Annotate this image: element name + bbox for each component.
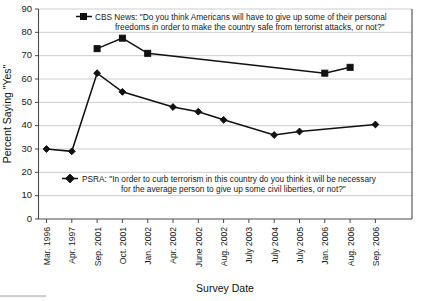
y-tick-label: 40 bbox=[21, 119, 32, 130]
x-tick-label: Aug. 2002 bbox=[219, 227, 229, 266]
x-tick-label: June 2002 bbox=[194, 227, 204, 267]
gridlines bbox=[39, 9, 413, 196]
poll-line-chart: 0102030405060708090 Mar. 1996Apr. 1997Se… bbox=[0, 0, 425, 301]
x-tick-label: July 2005 bbox=[295, 227, 305, 264]
x-tick-label: July 2004 bbox=[270, 227, 280, 264]
legend-cbs-line2: freedoms in order to make the country sa… bbox=[115, 22, 385, 32]
x-tick-label: Oct. 2001 bbox=[118, 227, 128, 264]
data-point-marker bbox=[296, 128, 303, 135]
x-axis-ticks bbox=[47, 219, 376, 223]
x-tick-label: Apr. 2002 bbox=[168, 227, 178, 264]
legend-cbs-line1: CBS News: "Do you think Americans will h… bbox=[95, 12, 387, 22]
y-tick-label: 90 bbox=[21, 3, 32, 14]
x-axis-title: Survey Date bbox=[196, 282, 254, 294]
y-tick-label: 70 bbox=[21, 49, 32, 60]
legend-psra-line1: PSRA: "In order to curb terrorism in thi… bbox=[82, 174, 377, 184]
x-axis-tick-labels: Mar. 1996Apr. 1997Sep. 2001Oct. 2001Jan.… bbox=[42, 227, 381, 267]
data-point-marker bbox=[322, 70, 328, 76]
y-axis-title: Percent Saying "Yes" bbox=[1, 64, 13, 163]
data-point-marker bbox=[347, 64, 353, 70]
x-tick-label: July 2003 bbox=[244, 227, 254, 264]
data-point-marker bbox=[43, 146, 50, 153]
data-point-marker bbox=[145, 50, 151, 56]
legend-psra-line2: for the average person to give up some c… bbox=[121, 184, 346, 194]
y-tick-label: 50 bbox=[21, 96, 32, 107]
x-tick-label: Jan. 2002 bbox=[143, 227, 153, 265]
data-point-marker bbox=[195, 108, 202, 115]
series-line-psra bbox=[47, 73, 376, 151]
data-point-marker bbox=[372, 121, 379, 128]
x-tick-label: Mar. 1996 bbox=[42, 227, 52, 265]
chart-container: 0102030405060708090 Mar. 1996Apr. 1997Se… bbox=[0, 0, 425, 301]
x-tick-label: Aug. 2006 bbox=[346, 227, 356, 266]
y-axis-tick-labels: 0102030405060708090 bbox=[21, 3, 32, 224]
caption-cutoff-strip bbox=[0, 295, 46, 297]
data-series-layer bbox=[43, 35, 379, 155]
y-tick-label: 80 bbox=[21, 26, 32, 37]
legend-psra-diamond-marker bbox=[66, 174, 75, 183]
data-point-marker bbox=[271, 132, 278, 139]
y-tick-label: 20 bbox=[21, 166, 32, 177]
data-point-marker bbox=[119, 35, 125, 41]
legend-psra: PSRA: "In order to curb terrorism in thi… bbox=[62, 174, 377, 195]
data-point-marker bbox=[170, 104, 177, 111]
x-tick-label: Apr. 1997 bbox=[67, 227, 77, 264]
y-tick-label: 30 bbox=[21, 143, 32, 154]
data-point-marker bbox=[220, 116, 227, 123]
y-tick-label: 0 bbox=[27, 213, 32, 224]
x-tick-label: Jan. 2006 bbox=[320, 227, 330, 265]
legend-cbs-square-marker bbox=[81, 14, 87, 20]
data-point-marker bbox=[94, 46, 100, 52]
x-tick-label: Sep. 2006 bbox=[371, 227, 381, 266]
y-tick-label: 60 bbox=[21, 73, 32, 84]
x-tick-label: Sep. 2001 bbox=[93, 227, 103, 266]
y-tick-label: 10 bbox=[21, 189, 32, 200]
legend-cbs-news: CBS News: "Do you think Americans will h… bbox=[76, 12, 387, 33]
